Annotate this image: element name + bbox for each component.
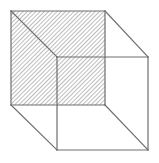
cube-diagram [0, 0, 159, 163]
cube-figure [0, 0, 159, 163]
connector-top-right [105, 11, 148, 57]
connector-bottom-left [11, 105, 57, 150]
connector-bottom-right [105, 105, 148, 150]
